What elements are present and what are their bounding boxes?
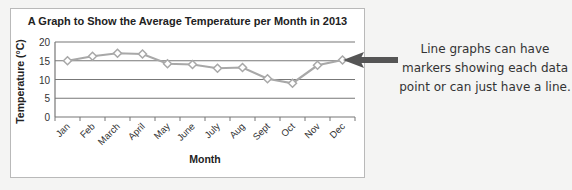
data-point-marker — [189, 61, 197, 69]
y-tick-label: 0 — [44, 112, 50, 123]
x-tick-label: June — [175, 121, 197, 143]
x-tick-label: April — [126, 121, 147, 142]
data-point-marker — [239, 64, 247, 72]
y-tick-label: 20 — [39, 37, 51, 48]
x-tick-label: Sept — [250, 120, 272, 142]
x-tick-label: March — [95, 121, 121, 147]
data-point-marker — [64, 57, 72, 65]
annotation-line-3: point or can just have a line. — [398, 78, 572, 97]
arrow-shaft — [360, 57, 398, 63]
x-tick-label: Aug — [227, 121, 247, 141]
data-line — [68, 53, 343, 83]
data-point-marker — [114, 49, 122, 57]
annotation-note: Line graphs can have markers showing eac… — [398, 40, 572, 97]
data-point-marker — [214, 64, 222, 72]
x-axis-title: Month — [189, 153, 221, 165]
x-tick-label: Nov — [302, 120, 322, 140]
x-tick-label: Jan — [53, 121, 72, 140]
data-point-marker — [139, 50, 147, 58]
y-axis-title: Temperature (°C) — [14, 39, 26, 124]
annotation-line-1: Line graphs can have — [398, 40, 572, 59]
data-point-marker — [264, 75, 272, 83]
x-tick-label: Dec — [327, 120, 347, 140]
y-tick-label: 15 — [39, 56, 51, 67]
data-point-marker — [89, 52, 97, 60]
y-tick-label: 5 — [44, 93, 50, 104]
x-tick-label: Oct — [279, 120, 297, 138]
x-tick-label: May — [151, 120, 172, 141]
x-tick-label: July — [202, 120, 222, 140]
x-tick-label: Feb — [78, 121, 97, 140]
annotation-line-2: markers showing each data — [398, 59, 572, 78]
y-tick-label: 10 — [39, 75, 51, 86]
